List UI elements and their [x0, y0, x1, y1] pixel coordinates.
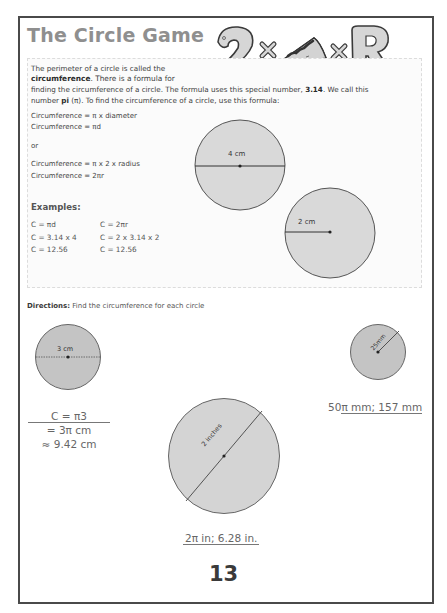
times-icon — [262, 44, 274, 56]
exercise-circle-2in — [167, 397, 281, 515]
formula-2pi-r: Circumference = 2πr — [31, 172, 104, 180]
intro-text: number — [31, 96, 61, 105]
intro-line-3: finding the circumference of a circle. T… — [31, 85, 369, 96]
example-step: C = 2πr — [100, 219, 159, 232]
page-number: 13 — [0, 562, 447, 586]
intro-line-4: number pi (π). To find the circumference… — [31, 96, 279, 107]
answer-2: 2π in; 6.28 in. — [183, 532, 259, 545]
answer-1-line-2: = 3π cm — [28, 424, 110, 436]
answer-1-line-3: ≈ 9.42 cm — [28, 438, 110, 450]
directions-label: Directions: — [27, 302, 70, 310]
circle-label: 4 cm — [228, 150, 245, 158]
intro-line-1: The perimeter of a circle is called the — [31, 64, 165, 75]
answer-1-line-1: C = π3 — [28, 410, 110, 423]
page-title: The Circle Game — [27, 24, 204, 46]
circle-label: 2 cm — [298, 218, 315, 226]
circle-label: 3 cm — [57, 345, 73, 353]
directions: Directions: Find the circumference for e… — [27, 302, 204, 310]
directions-text: Find the circumference for each circle — [70, 302, 204, 310]
example-step: C = 12.56 — [31, 244, 77, 257]
answer-3-underlined: π mm; 157 mm — [341, 401, 422, 414]
formula-pi-d: Circumference = πd — [31, 123, 101, 131]
times-icon — [333, 46, 345, 58]
term-pi: pi — [61, 96, 69, 105]
example-step: C = 12.56 — [100, 244, 159, 257]
intro-text: . There is a formula for — [90, 74, 174, 83]
pi-value: 3.14 — [305, 85, 323, 94]
example-circle-radius — [283, 186, 377, 280]
formula-radius: Circumference = π x 2 x radius — [31, 160, 140, 168]
exercise-circle-25mm — [349, 323, 407, 381]
intro-text: The perimeter of a circle is called the — [31, 64, 165, 73]
example-step: C = πd — [31, 219, 77, 232]
answer-3-prefix: 50 — [328, 401, 341, 413]
example-step: C = 3.14 x 4 — [31, 232, 77, 245]
formula-or: or — [31, 142, 38, 150]
intro-text: . We call this — [323, 85, 369, 94]
answer-3: 50π mm; 157 mm — [328, 401, 422, 413]
term-circumference: circumference — [31, 74, 90, 83]
example-circle-diameter — [193, 118, 287, 212]
example-step: C = 2 x 3.14 x 2 — [100, 232, 159, 245]
example-column-radius: C = 2πr C = 2 x 3.14 x 2 C = 12.56 — [100, 219, 159, 257]
exercise-circle-3cm — [34, 323, 102, 391]
intro-text: (π). To find the circumference of a circ… — [69, 96, 279, 105]
examples-heading: Examples: — [31, 202, 81, 212]
intro-line-2: circumference. There is a formula for — [31, 74, 175, 85]
intro-text: finding the circumference of a circle. T… — [31, 85, 305, 94]
formula-diameter: Circumference = π x diameter — [31, 112, 137, 120]
example-column-diameter: C = πd C = 3.14 x 4 C = 12.56 — [31, 219, 77, 257]
